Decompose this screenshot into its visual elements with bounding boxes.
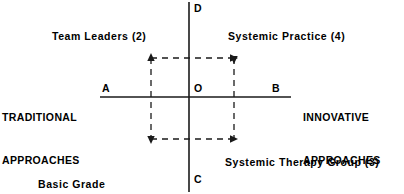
quadrant-diagram: Team Leaders (2) Systemic Practice (4) B…	[0, 0, 404, 194]
quadrant-label-top-left: Team Leaders (2)	[52, 29, 146, 43]
arrowhead-bottom-left-down	[147, 136, 154, 144]
axis-letter-a: A	[102, 81, 110, 95]
axis-pole-label-left-line1: TRADITIONAL	[2, 110, 80, 124]
axis-pole-label-right-line1: INNOVATIVE	[303, 110, 381, 124]
axis-letter-origin: O	[194, 81, 202, 95]
axis-letter-c: C	[194, 172, 202, 186]
flow-arrowheads	[147, 53, 238, 144]
arrowhead-top-left-up	[147, 53, 154, 61]
dashed-flow-rectangle	[151, 58, 234, 139]
axis-pole-label-right: INNOVATIVE APPROACHES	[303, 82, 381, 194]
quadrant-label-top-right: Systemic Practice (4)	[228, 29, 345, 43]
axis-letter-b: B	[272, 81, 280, 95]
axis-pole-label-left: TRADITIONAL APPROACHES	[2, 82, 80, 194]
axis-letter-d: D	[194, 1, 202, 15]
axis-pole-label-left-line2: APPROACHES	[2, 153, 80, 167]
axis-pole-label-right-line2: APPROACHES	[303, 153, 381, 167]
